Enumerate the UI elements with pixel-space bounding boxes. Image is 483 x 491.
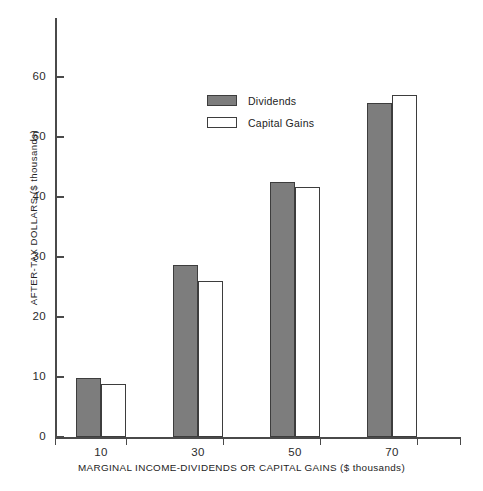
- y-tick-label: 60: [8, 70, 46, 82]
- y-tick-mark: [55, 76, 64, 77]
- x-tick-label: 70: [362, 446, 422, 458]
- y-tick-mark: [55, 196, 64, 197]
- y-tick-mark: [55, 136, 64, 137]
- y-tick-mark: [55, 256, 64, 257]
- y-tick-label: 10: [8, 370, 46, 382]
- x-tick-label: 50: [265, 446, 325, 458]
- x-tick-mark: [320, 437, 321, 445]
- legend-item-dividends: Dividends: [207, 92, 314, 109]
- bar-dividends-50: [270, 182, 295, 437]
- bar-capital-gains-30: [198, 281, 223, 437]
- y-axis-title: AFTER-TAX DOLLARS ($ thousands): [28, 123, 39, 313]
- y-tick-mark: [55, 376, 64, 377]
- x-tick-label: 10: [71, 446, 131, 458]
- bar-capital-gains-10: [101, 384, 126, 437]
- bar-chart-figure: 0102030405060 10305070 AFTER-TAX DOLLARS…: [0, 0, 483, 491]
- x-axis-line: [55, 437, 460, 439]
- y-axis-line: [55, 18, 57, 438]
- bar-capital-gains-50: [295, 187, 320, 437]
- bar-dividends-10: [76, 378, 101, 437]
- legend-label-dividends: Dividends: [248, 95, 296, 107]
- x-axis-title: MARGINAL INCOME-DIVIDENDS OR CAPITAL GAI…: [0, 462, 483, 473]
- legend-swatch-capital-gains-icon: [207, 117, 237, 128]
- chart-legend: Dividends Capital Gains: [207, 92, 314, 136]
- x-tick-label: 30: [168, 446, 228, 458]
- legend-item-capital-gains: Capital Gains: [207, 114, 314, 131]
- bar-dividends-70: [367, 103, 392, 437]
- x-tick-mark: [55, 437, 56, 445]
- x-tick-mark: [223, 437, 224, 445]
- bar-dividends-30: [173, 265, 198, 437]
- y-tick-mark: [55, 316, 64, 317]
- bar-capital-gains-70: [392, 95, 417, 437]
- legend-label-capital-gains: Capital Gains: [248, 117, 314, 129]
- y-tick-label: 0: [8, 430, 46, 442]
- x-tick-mark: [417, 437, 418, 445]
- x-tick-mark: [126, 437, 127, 445]
- legend-swatch-dividends-icon: [207, 95, 237, 106]
- x-tick-mark: [460, 437, 461, 445]
